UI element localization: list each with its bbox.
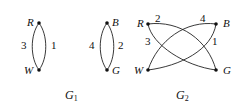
g2-edge-2 xyxy=(148,23,216,70)
g1-edge-2-label: 2 xyxy=(118,39,124,51)
g2-vertex-g xyxy=(214,68,218,72)
g2-vertex-w-label: W xyxy=(134,64,144,76)
g2-edge-1 xyxy=(148,24,216,70)
g2-edge-1-label: 1 xyxy=(212,35,218,47)
g1-edge-2 xyxy=(107,23,114,70)
g1-vertex-g-label: G xyxy=(112,64,120,76)
g1-vertex-w-label: W xyxy=(24,64,34,76)
g1-caption: G1 xyxy=(65,88,78,103)
g2-edge-4-label: 4 xyxy=(200,12,206,24)
g1-edge-4 xyxy=(100,23,107,70)
g1-edge-1-label: 1 xyxy=(51,39,57,51)
g2-caption-name: G xyxy=(176,88,185,102)
g2-edge-3 xyxy=(148,24,216,70)
g1-edge-1 xyxy=(39,23,46,70)
g1-vertex-b-label: B xyxy=(112,16,119,28)
g2-edge-3-label: 3 xyxy=(145,35,151,47)
g2-edge-2-label: 2 xyxy=(155,12,161,24)
g2-vertex-r xyxy=(146,22,150,26)
g2-vertex-b xyxy=(214,22,218,26)
g1-edge-3 xyxy=(32,23,39,70)
g2-caption: G2 xyxy=(176,88,189,103)
g2-graph: R B W G 2 4 3 1 xyxy=(134,12,231,76)
g1-vertex-g xyxy=(105,68,109,72)
g2-caption-subscript: 2 xyxy=(185,94,189,103)
g1-vertex-r xyxy=(37,21,41,25)
g2-edge-4 xyxy=(148,23,216,70)
g1-component-bg: B G 4 2 xyxy=(89,16,124,76)
g1-caption-name: G xyxy=(65,88,74,102)
g2-vertex-b-label: B xyxy=(223,17,230,29)
g1-caption-subscript: 1 xyxy=(74,94,78,103)
g1-vertex-w xyxy=(37,68,41,72)
g1-vertex-b xyxy=(105,21,109,25)
g1-edge-3-label: 3 xyxy=(21,39,27,51)
diagram-svg: R W 3 1 B G 4 2 xyxy=(0,0,235,106)
g1-vertex-r-label: R xyxy=(26,16,34,28)
g2-vertex-g-label: G xyxy=(223,64,231,76)
g2-vertex-r-label: R xyxy=(136,17,144,29)
graph-diagram: R W 3 1 B G 4 2 xyxy=(0,0,235,106)
g1-edge-4-label: 4 xyxy=(89,39,95,51)
g2-vertex-w xyxy=(146,68,150,72)
g1-component-rw: R W 3 1 xyxy=(21,16,57,76)
